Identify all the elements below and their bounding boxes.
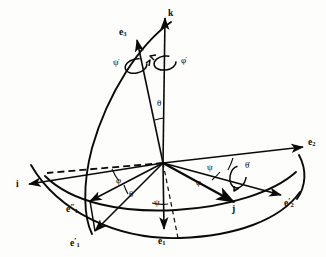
label-theta-upper: θ: [157, 99, 161, 108]
vector-e1: [163, 163, 164, 229]
label-e1: e1: [158, 237, 165, 247]
label-theta-lower: θ: [129, 190, 133, 199]
label-e1-dprime: e″1: [66, 204, 78, 215]
vector-e2: [163, 147, 303, 163]
label-phi-dot: φ̇: [181, 56, 186, 65]
vector-k: [163, 18, 165, 163]
label-e3: e3: [119, 28, 126, 38]
axis-vectors: [29, 18, 303, 231]
chord-e1dp-e1p: [90, 201, 95, 231]
label-theta-dot: θ̇: [245, 161, 249, 170]
angle-arc-theta-upper: [155, 118, 164, 120]
label-psi-center: ψ: [154, 198, 160, 207]
label-e1-prime: e′1: [70, 238, 80, 249]
label-psi-dot: ψ̇: [113, 58, 119, 67]
dashed-lines-thin: [163, 163, 178, 238]
label-psi-right: ψ: [207, 163, 213, 172]
vector-e2-prime: [163, 163, 281, 195]
label-j: j: [232, 205, 235, 215]
rate-arrow-psi-dot: [124, 57, 150, 76]
label-phi-left: φ: [116, 176, 121, 185]
euler-angles-figure: k e3 e2 i j e′2 e″1 e′1 e1 θ φ θ ψ φ ψ ψ…: [0, 0, 326, 257]
rim-chords: [90, 201, 95, 231]
arc-rim-right: [297, 155, 304, 199]
label-phi-right: φ: [196, 178, 201, 187]
phi-dot-arrowhead: [150, 55, 156, 60]
arc-equator-inner: [45, 172, 296, 211]
angle-arc-theta-lower: [124, 185, 128, 194]
label-e2: e2: [308, 138, 315, 148]
dashed-vertical-drop: [163, 163, 178, 238]
label-i: i: [16, 180, 19, 190]
label-e2-prime: e′2: [284, 198, 294, 209]
label-k: k: [168, 9, 173, 19]
angle-arc-psi-right: [228, 158, 233, 170]
rate-arrow-phi-dot: [150, 55, 177, 72]
euler-diagram-svg: [0, 0, 326, 257]
arc-equator-outer: [31, 165, 300, 238]
